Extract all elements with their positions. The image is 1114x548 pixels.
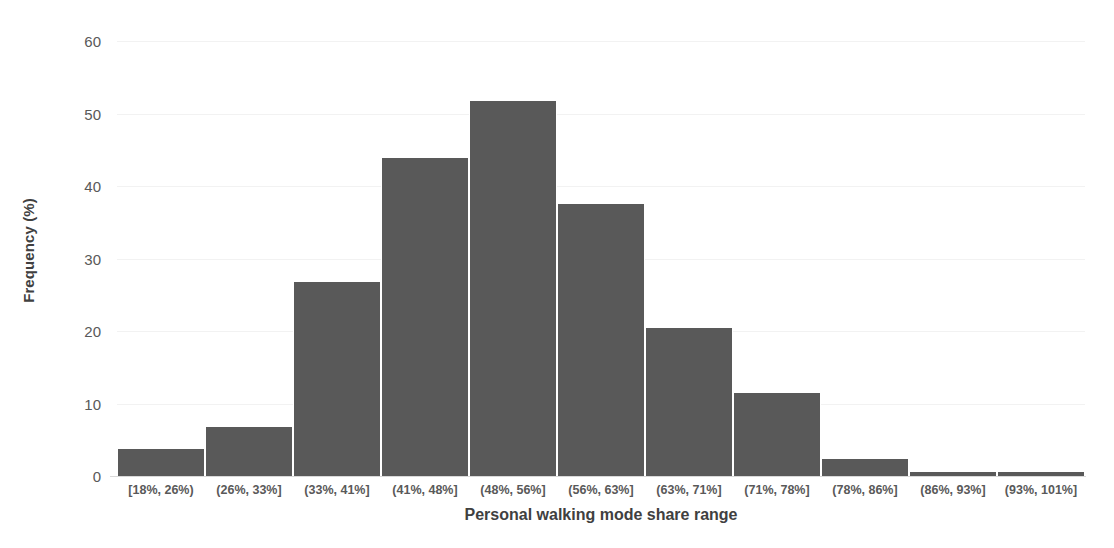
histogram-bar [909, 472, 997, 476]
histogram-bar [469, 101, 557, 476]
x-axis-tick-labels: [18%, 26%)(26%, 33%](33%, 41%](41%, 48%]… [117, 479, 1085, 503]
plot-area [117, 41, 1085, 476]
x-axis-title: Personal walking mode share range [117, 506, 1085, 524]
bar-series [117, 41, 1085, 476]
histogram-bar-cell [293, 41, 381, 476]
y-axis-tick-label: 60 [84, 33, 101, 50]
histogram-bar [293, 282, 381, 476]
y-axis-title: Frequency (%) [0, 0, 56, 500]
histogram-bar [733, 393, 821, 476]
x-axis-tick-label: (71%, 78%] [733, 479, 821, 503]
x-axis-tick-label: (86%, 93%] [909, 479, 997, 503]
x-axis-tick-label: (56%, 63%] [557, 479, 645, 503]
histogram-bar [381, 158, 469, 476]
y-axis-tick-label: 20 [84, 323, 101, 340]
x-axis-tick-label: (78%, 86%] [821, 479, 909, 503]
y-axis-tick-label: 50 [84, 105, 101, 122]
x-axis-tick-label: [18%, 26%) [117, 479, 205, 503]
y-axis-tick-label: 10 [84, 395, 101, 412]
histogram-bar [117, 449, 205, 476]
histogram-bar-cell [821, 41, 909, 476]
histogram-bar [645, 328, 733, 476]
x-axis-tick-label: (26%, 33%] [205, 479, 293, 503]
y-axis-tick-labels: 0102030405060 [56, 41, 109, 476]
histogram-bar [997, 472, 1085, 476]
histogram-bar [205, 427, 293, 476]
y-axis-tick-label: 40 [84, 178, 101, 195]
histogram-figure: Frequency (%) 0102030405060 [18%, 26%)(2… [0, 0, 1114, 548]
x-axis-tick-label: (63%, 71%] [645, 479, 733, 503]
x-axis-tick-label: (33%, 41%] [293, 479, 381, 503]
y-axis-tick-label: 30 [84, 250, 101, 267]
histogram-bar-cell [205, 41, 293, 476]
histogram-bar [821, 459, 909, 476]
histogram-bar-cell [645, 41, 733, 476]
y-axis-title-text: Frequency (%) [20, 198, 37, 303]
histogram-bar-cell [733, 41, 821, 476]
histogram-bar [557, 204, 645, 476]
histogram-bar-cell [909, 41, 997, 476]
histogram-bar-cell [997, 41, 1085, 476]
histogram-bar-cell [557, 41, 645, 476]
histogram-bar-cell [381, 41, 469, 476]
x-axis-tick-label: (48%, 56%] [469, 479, 557, 503]
histogram-bar-cell [469, 41, 557, 476]
x-axis-line [110, 476, 1086, 477]
histogram-bar-cell [117, 41, 205, 476]
x-axis-tick-label: (93%, 101%] [997, 479, 1085, 503]
x-axis-tick-label: (41%, 48%] [381, 479, 469, 503]
y-axis-tick-label: 0 [93, 468, 101, 485]
